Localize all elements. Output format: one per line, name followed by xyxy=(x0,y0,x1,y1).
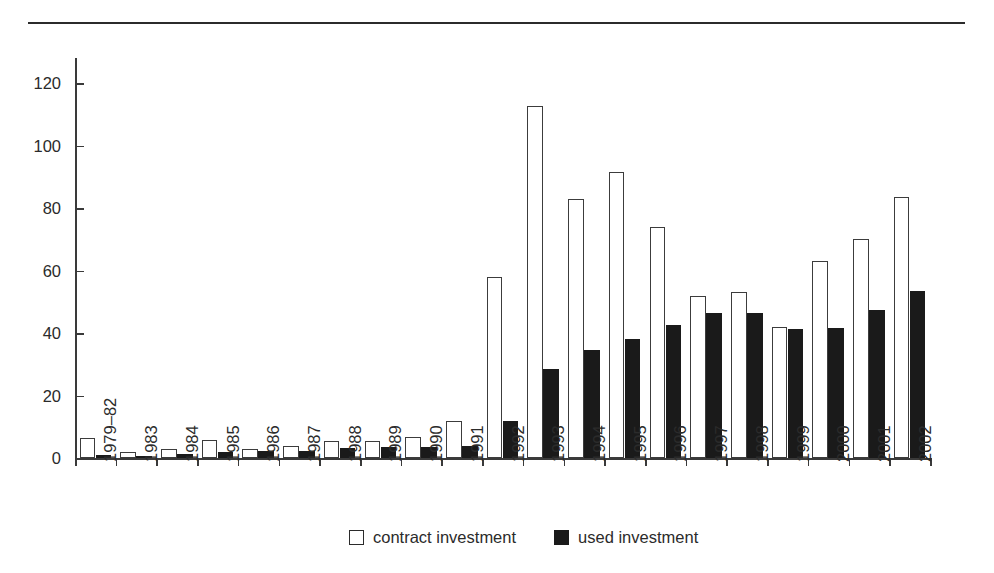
x-tick-mark xyxy=(75,458,77,466)
bar-contract-investment xyxy=(650,227,666,458)
bar-contract-investment xyxy=(853,239,869,458)
legend-label-contract-investment: contract investment xyxy=(373,528,516,547)
bar-group xyxy=(853,58,885,458)
y-tick-label: 80 xyxy=(43,199,61,218)
x-axis-label: 1999 xyxy=(794,425,813,462)
bar-contract-investment xyxy=(161,449,177,458)
x-axis-label: 1979–82 xyxy=(101,398,120,462)
y-tick-label: 20 xyxy=(43,386,61,405)
legend-swatch-filled-square-icon xyxy=(554,530,569,545)
bar-contract-investment xyxy=(690,296,706,459)
bar-group xyxy=(812,58,844,458)
x-axis-label: 1991 xyxy=(468,425,487,462)
plot-area: 020406080100120 xyxy=(75,58,930,458)
bar-group xyxy=(242,58,274,458)
bar-group xyxy=(772,58,804,458)
x-axis-label: 1995 xyxy=(631,425,650,462)
top-horizontal-rule xyxy=(28,22,965,24)
bar-group xyxy=(324,58,356,458)
bar-contract-investment xyxy=(609,172,625,458)
bar-contract-investment xyxy=(568,199,584,458)
x-axis-label: 1998 xyxy=(753,425,772,462)
x-axis-label: 1987 xyxy=(305,425,324,462)
bar-contract-investment xyxy=(120,452,136,458)
bar-group xyxy=(120,58,152,458)
legend-item-used-investment: used investment xyxy=(554,528,698,547)
legend-label-used-investment: used investment xyxy=(578,528,698,547)
bar-group xyxy=(283,58,315,458)
bar-contract-investment xyxy=(283,446,299,458)
x-axis-label: 1990 xyxy=(427,425,446,462)
x-axis-label: 1988 xyxy=(346,425,365,462)
y-tick-label: 60 xyxy=(43,261,61,280)
bar-contract-investment xyxy=(527,106,543,458)
chart-page: 020406080100120 1979–8219831984198519861… xyxy=(0,0,994,573)
bar-group xyxy=(365,58,397,458)
bar-group xyxy=(609,58,641,458)
x-axis-label: 1993 xyxy=(549,425,568,462)
bar-group xyxy=(731,58,763,458)
bar-group xyxy=(487,58,519,458)
legend-swatch-open-square-icon xyxy=(349,530,364,545)
bar-contract-investment xyxy=(405,437,421,458)
bar-group xyxy=(527,58,559,458)
x-axis-label: 2000 xyxy=(834,425,853,462)
bar-group xyxy=(690,58,722,458)
bar-contract-investment xyxy=(772,327,788,458)
x-axis-label: 1996 xyxy=(671,425,690,462)
bar-group xyxy=(446,58,478,458)
bar-contract-investment xyxy=(731,292,747,458)
bar-group xyxy=(650,58,682,458)
bar-series-container xyxy=(75,58,930,458)
bar-contract-investment xyxy=(446,421,462,459)
x-axis-label: 1992 xyxy=(509,425,528,462)
bar-group xyxy=(568,58,600,458)
bar-contract-investment xyxy=(80,438,96,458)
bar-group xyxy=(405,58,437,458)
bar-contract-investment xyxy=(202,440,218,458)
x-axis-label: 1983 xyxy=(142,425,161,462)
x-axis-label: 1989 xyxy=(386,425,405,462)
bar-group xyxy=(894,58,926,458)
bar-contract-investment xyxy=(365,441,381,459)
bar-contract-investment xyxy=(324,441,340,458)
bar-contract-investment xyxy=(242,449,258,458)
y-tick-label: 100 xyxy=(33,136,61,155)
chart-legend: contract investment used investment xyxy=(349,528,698,547)
x-axis-label: 1985 xyxy=(224,425,243,462)
y-tick-label: 40 xyxy=(43,324,61,343)
bar-contract-investment xyxy=(487,277,503,458)
bar-group xyxy=(202,58,234,458)
legend-item-contract-investment: contract investment xyxy=(349,528,516,547)
x-axis-label: 2001 xyxy=(875,425,894,462)
x-axis-label: 1984 xyxy=(183,425,202,462)
bar-contract-investment xyxy=(894,197,910,458)
y-tick-label: 0 xyxy=(52,449,61,468)
y-tick-label: 120 xyxy=(33,74,61,93)
x-axis-label: 2002 xyxy=(916,425,935,462)
x-axis-label: 1997 xyxy=(712,425,731,462)
bar-group xyxy=(161,58,193,458)
x-axis-label: 1994 xyxy=(590,425,609,462)
bar-contract-investment xyxy=(812,261,828,458)
x-axis-label: 1986 xyxy=(264,425,283,462)
